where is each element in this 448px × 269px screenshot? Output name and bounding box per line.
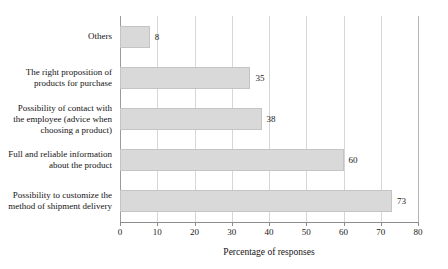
tick-mark [195,222,196,226]
category-label: Full and reliable informationabout the p… [0,149,116,171]
x-tick-label: 20 [190,228,199,237]
x-tick-label: 40 [265,228,274,237]
category-label-line: products for purchase [0,78,112,89]
bar-value-label: 73 [397,197,406,206]
category-label-line: choosing a product) [0,125,112,136]
bar-chart: OthersThe right proposition ofproducts f… [0,0,448,269]
gridline [418,16,419,222]
bar-value-label: 8 [155,32,160,41]
category-label-line: Possibility to customize the [0,190,112,201]
category-label-line: about the product [0,160,112,171]
bar[interactable] [120,190,392,212]
category-label-line: Possibility of contact with [0,103,112,114]
tick-mark [381,222,382,226]
tick-mark [120,222,121,226]
x-tick-label: 30 [227,228,236,237]
tick-mark [344,222,345,226]
category-label: Others [0,31,116,42]
bar-row: 38 [120,108,418,130]
bar-row: 73 [120,190,418,212]
bar-row: 35 [120,67,418,89]
plot-area: 835386073 [120,16,418,222]
category-label-line: the employee (advice when [0,114,112,125]
x-tick-label: 50 [302,228,311,237]
bar-value-label: 60 [349,156,358,165]
x-tick-label: 0 [118,228,123,237]
tick-mark [157,222,158,226]
x-tick-label: 80 [414,228,423,237]
x-tick-label: 10 [153,228,162,237]
category-label-line: method of shipment delivery [0,201,112,212]
x-tick-label: 60 [339,228,348,237]
tick-mark [306,222,307,226]
category-label: Possibility of contact withthe employee … [0,103,116,136]
bar-value-label: 35 [255,73,264,82]
bar[interactable] [120,149,344,171]
category-label-line: Full and reliable information [0,149,112,160]
category-label-line: The right proposition of [0,67,112,78]
tick-mark [232,222,233,226]
tick-mark [418,222,419,226]
x-tick-label: 70 [376,228,385,237]
category-label: The right proposition ofproducts for pur… [0,67,116,89]
x-axis-title: Percentage of responses [120,247,418,257]
bar-row: 60 [120,149,418,171]
bar-value-label: 38 [267,115,276,124]
category-label: Possibility to customize themethod of sh… [0,190,116,212]
bar[interactable] [120,26,150,48]
bar[interactable] [120,67,250,89]
bar[interactable] [120,108,262,130]
category-axis-labels: OthersThe right proposition ofproducts f… [0,0,116,269]
category-label-line: Others [0,31,112,42]
tick-mark [269,222,270,226]
bar-row: 8 [120,26,418,48]
